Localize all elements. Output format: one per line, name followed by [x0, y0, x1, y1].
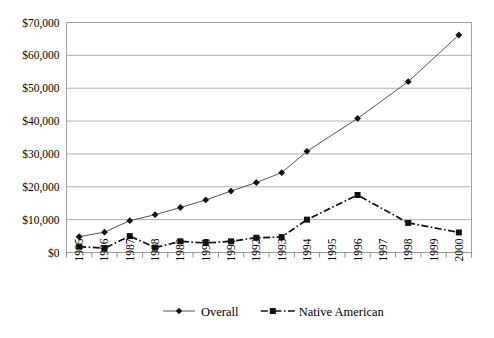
data-point-marker-square	[127, 233, 133, 239]
y-axis-tick-label: $10,000	[22, 214, 60, 227]
data-point-marker-square	[304, 217, 310, 223]
data-point-marker-square	[279, 234, 285, 240]
x-axis-tick-label: 2000	[453, 238, 465, 261]
data-point-marker-square	[152, 245, 158, 251]
legend-label: Native American	[299, 305, 385, 319]
x-axis-tick-labels: 1985198619871988198919901991199219931994…	[73, 238, 465, 261]
data-point-marker-diamond	[177, 204, 184, 211]
y-axis-tick-label: $30,000	[22, 148, 60, 161]
x-axis-tick-label: 1995	[326, 238, 338, 261]
data-point-marker-square	[203, 240, 209, 246]
series-line-overall	[79, 35, 459, 237]
data-point-marker-square	[355, 192, 361, 198]
x-axis-tick-label: 1998	[402, 238, 414, 261]
data-point-marker-square	[228, 238, 234, 244]
legend-label: Overall	[201, 305, 239, 319]
x-axis-tick-label: 1997	[377, 238, 389, 261]
chart-legend: OverallNative American	[163, 305, 385, 319]
data-point-marker-diamond	[228, 188, 235, 195]
gridlines	[67, 23, 472, 253]
y-axis-tick-labels: $0$10,000$20,000$30,000$40,000$50,000$60…	[22, 17, 60, 259]
data-point-marker-diamond	[253, 179, 260, 186]
x-axis-tick-label: 1994	[301, 238, 313, 261]
data-point-marker-diamond	[152, 211, 159, 218]
x-axis-tick-label: 1985	[73, 238, 85, 261]
data-point-marker-diamond	[101, 229, 108, 236]
data-point-marker-diamond	[176, 308, 182, 314]
data-point-marker-square	[270, 308, 276, 314]
y-axis-tick-label: $70,000	[22, 17, 60, 30]
y-axis-tick-label: $60,000	[22, 49, 60, 62]
data-point-marker-diamond	[126, 217, 133, 224]
x-axis-tick-label: 1992	[250, 238, 262, 261]
data-point-marker-diamond	[202, 197, 209, 204]
chart-container: $0$10,000$20,000$30,000$40,000$50,000$60…	[0, 0, 494, 338]
y-axis-tick-label: $40,000	[22, 115, 60, 128]
data-point-marker-square	[253, 235, 259, 241]
data-point-marker-square	[177, 238, 183, 244]
data-point-marker-square	[76, 244, 82, 250]
data-point-marker-square	[456, 229, 462, 235]
y-axis-tick-label: $20,000	[22, 181, 60, 194]
x-axis-tick-label: 1999	[428, 238, 440, 261]
x-axis-tick-label: 1987	[124, 238, 136, 261]
y-axis-tick-label: $0	[48, 247, 60, 259]
y-axis-tick-label: $50,000	[22, 82, 60, 95]
line-chart: $0$10,000$20,000$30,000$40,000$50,000$60…	[0, 0, 494, 338]
data-point-marker-square	[101, 245, 107, 251]
x-axis-tick-label: 1993	[276, 238, 288, 261]
data-point-marker-square	[405, 220, 411, 226]
data-series	[76, 32, 462, 252]
x-axis-tick-label: 1996	[352, 238, 364, 261]
plot-area-border	[67, 23, 472, 253]
